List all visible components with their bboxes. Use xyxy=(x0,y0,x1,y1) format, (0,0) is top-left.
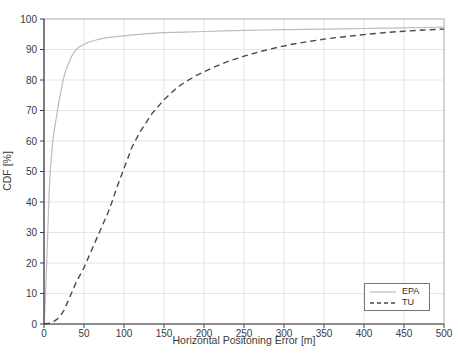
y-tick-label: 60 xyxy=(26,136,38,147)
x-axis-title: Horizontal Positoning Error [m] xyxy=(44,334,444,346)
y-tick-label: 90 xyxy=(26,44,38,55)
legend-item-epa: EPA xyxy=(369,286,426,297)
epa-line-sample-icon xyxy=(369,289,397,295)
y-tick-label: 50 xyxy=(26,166,38,177)
y-tick-label: 10 xyxy=(26,288,38,299)
legend: EPA TU xyxy=(364,283,430,311)
y-tick-label: 30 xyxy=(26,227,38,238)
y-tick-label: 100 xyxy=(20,14,37,25)
y-tick-label: 20 xyxy=(26,258,38,269)
y-tick-label: 70 xyxy=(26,105,38,116)
tu-line-sample-icon xyxy=(369,300,397,306)
legend-label-epa: EPA xyxy=(402,286,419,297)
cdf-chart: 0501001502002503003504004505000102030405… xyxy=(0,0,458,358)
y-axis-title: CDF [%] xyxy=(1,96,13,246)
legend-item-tu: TU xyxy=(369,297,426,308)
y-tick-label: 80 xyxy=(26,75,38,86)
legend-label-tu: TU xyxy=(402,297,414,308)
y-tick-label: 0 xyxy=(31,319,37,330)
y-tick-label: 40 xyxy=(26,197,38,208)
